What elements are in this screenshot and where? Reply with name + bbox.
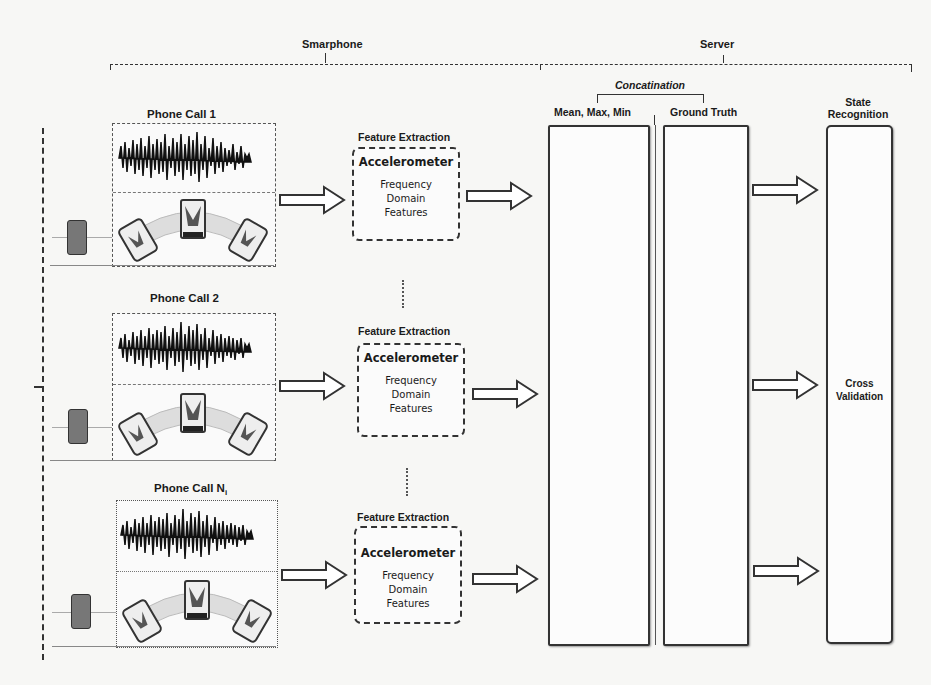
state-recognition-label: State Recognition <box>823 96 893 120</box>
server-bracket <box>540 64 912 65</box>
audio-waveform <box>117 501 277 572</box>
smartphone-group-label: Smarphone <box>302 38 363 50</box>
arrow-right-icon <box>280 560 348 590</box>
phone-call-2-panel <box>112 313 276 461</box>
features-line: Domain <box>356 583 460 597</box>
mean-max-min-column <box>548 125 650 646</box>
state-recognition-line: Recognition <box>823 108 893 120</box>
features-line: Frequency <box>356 569 460 583</box>
cross-validation-line: Cross <box>828 377 891 390</box>
audio-waveform <box>113 314 275 385</box>
server-bracket-tick <box>723 55 724 63</box>
ellipsis-dots <box>406 468 408 496</box>
features-line: Frequency <box>354 178 458 192</box>
arrow-right-icon <box>278 371 346 401</box>
axis-line <box>50 460 274 461</box>
server-group-label: Server <box>700 38 734 50</box>
smartphone-bracket <box>110 64 538 65</box>
feature-extraction-label-3: Feature Extraction <box>357 511 449 523</box>
state-recognition-line: State <box>823 96 893 108</box>
sensor-label: Accelerometer <box>359 351 463 365</box>
smartphone-icon <box>71 594 91 629</box>
axis-line <box>52 646 276 647</box>
axis-line <box>50 265 274 266</box>
features-line: Features <box>359 402 463 416</box>
phone-orientation-image <box>113 384 275 460</box>
arrow-right-icon <box>471 564 539 594</box>
phone-call-n-subscript: i <box>225 488 227 497</box>
waveform-icon <box>113 314 273 384</box>
ground-truth-label: Ground Truth <box>670 106 737 118</box>
audio-waveform <box>113 124 275 193</box>
concatenation-label: Concatination <box>615 79 685 91</box>
smartphone-icon <box>67 220 87 255</box>
server-bracket-right-end <box>911 64 912 72</box>
ground-truth-column <box>663 125 749 646</box>
sensor-label: Accelerometer <box>356 546 460 560</box>
arrow-right-icon <box>752 556 820 586</box>
concatenation-bracket <box>597 94 704 103</box>
arrow-right-icon <box>471 379 539 409</box>
server-bracket-left-end <box>540 64 541 70</box>
column-divider <box>655 125 656 645</box>
calls-bracket-tick <box>34 386 42 388</box>
smartphone-icon <box>68 409 88 444</box>
features-line: Frequency <box>359 374 463 388</box>
waveform-icon <box>113 124 273 192</box>
arrow-right-icon <box>465 181 533 211</box>
calls-group-bracket <box>42 128 44 660</box>
phone-call-2-label: Phone Call 2 <box>150 292 219 304</box>
features-label: Frequency Domain Features <box>354 178 458 220</box>
cross-validation-label: Cross Validation <box>828 377 891 403</box>
feature-extraction-box-1: Accelerometer Frequency Domain Features <box>352 147 460 241</box>
mean-max-min-label: Mean, Max, Min <box>554 106 631 118</box>
phone-call-n-text: Phone Call N <box>154 482 225 494</box>
arrow-right-icon <box>751 175 819 205</box>
features-line: Features <box>356 597 460 611</box>
phone-call-1-label: Phone Call 1 <box>147 108 216 120</box>
column-divider <box>654 115 655 125</box>
features-line: Domain <box>359 388 463 402</box>
phone-call-n-label: Phone Call Ni <box>154 482 227 497</box>
feature-extraction-box-2: Accelerometer Frequency Domain Features <box>357 343 465 437</box>
arrow-right-icon <box>278 185 346 215</box>
phone-orientation-image <box>117 571 277 647</box>
sensor-label: Accelerometer <box>354 155 458 169</box>
smartphone-bracket-left-end <box>110 64 111 70</box>
phone-call-1-panel <box>112 123 276 267</box>
features-label: Frequency Domain Features <box>356 569 460 611</box>
ellipsis-dots <box>402 280 404 308</box>
phone-orientation-image <box>113 192 275 266</box>
features-line: Domain <box>354 192 458 206</box>
features-label: Frequency Domain Features <box>359 374 463 416</box>
feature-extraction-label-2: Feature Extraction <box>358 325 450 337</box>
features-line: Features <box>354 206 458 220</box>
phone-call-n-panel <box>116 500 278 648</box>
feature-extraction-box-3: Accelerometer Frequency Domain Features <box>354 526 462 624</box>
state-recognition-column: Cross Validation <box>826 125 893 644</box>
cross-validation-line: Validation <box>828 390 891 403</box>
feature-extraction-label-1: Feature Extraction <box>358 131 450 143</box>
smartphone-bracket-tick <box>325 53 326 63</box>
waveform-icon <box>117 501 275 571</box>
arrow-right-icon <box>751 370 819 400</box>
